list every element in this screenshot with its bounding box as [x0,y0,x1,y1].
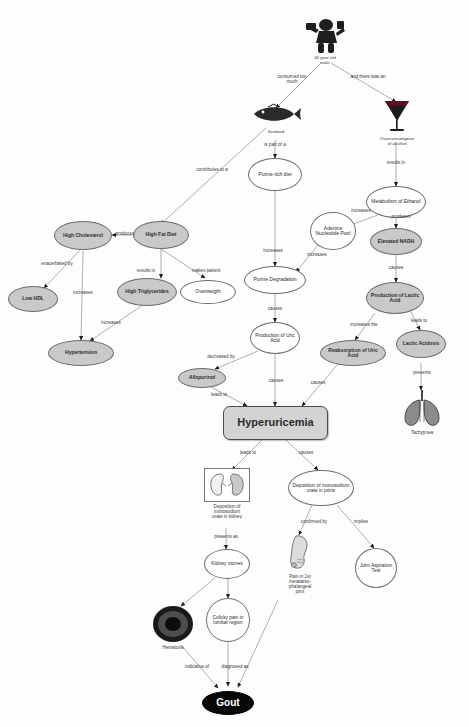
edge-label-increases-hypertension: increases [62,290,104,295]
edge-label-increases-adenine: increases [340,208,382,213]
mtp-pain-figure: Pain in 1st metatarso- phalangeal joint [272,534,328,594]
node-label: Purine rich diet [256,172,293,177]
edge-label-leads-to-joints: causes [288,450,324,455]
node-label: Colicky pain in lumbar region [207,615,249,625]
node-label: Production of Uric Acid [251,333,299,344]
edge-label-produces-nadh: produces [380,214,422,219]
edge-label-causes-kidney-stones: presents as [208,534,244,539]
edge-label-increases-uric: causes [254,306,296,311]
blood-cell-icon [151,604,195,644]
node-label: Hypertension [63,350,99,355]
node-label: Deposition of monosodium urate in joints [289,483,353,493]
node-label: Elevated NADH [376,239,416,244]
edge-label-causes-hyperuricemia: causes [258,378,294,383]
edge-label-and-there-was-an: and there was an [338,74,398,79]
edge-label-contributes-to-a: contributes to a [183,167,241,172]
edge-label-leads-to-kidney: leads to [230,450,266,455]
node-high-triglycerides[interactable]: High Triglycerides [117,278,177,306]
node-joint-aspiration-test[interactable]: Joint Aspiration Test [355,548,397,588]
node-label: Joint Aspiration Test [356,563,396,573]
edge-label-makes-patient: makes patient [180,268,232,273]
kidney-deposition-figure: Deposition of monosodium urate in kidney [199,468,255,519]
edge-label-prevents: leads to [200,392,238,397]
node-hyperuricemia[interactable]: Hyperuricemia [223,406,328,440]
edge-label-results-in-triglycerides: results in [124,268,168,273]
node-label: Adenine Nucleotide Pool [311,226,355,237]
concept-map-canvas: 40 year old male Seafood Overconsumption… [0,0,469,727]
alcohol-figure: Overconsumption of alcohol [370,98,424,147]
node-label: Lactic Acidosis [401,341,442,346]
edge-label-produces-cholesterol: produces [103,231,147,236]
node-adenine-nucleotide-pool[interactable]: Adenine Nucleotide Pool [310,212,356,250]
edge-label-presents-as: confirmed by [292,519,336,524]
hematuria-caption: Hematuria [162,645,183,650]
mtp-pain-caption: Pain in 1st metatarso- phalangeal joint [289,574,311,594]
edge-label-increases-degradation: increases [296,252,338,257]
foot-icon [286,534,314,572]
edge-label-confirmed-by: implies [338,519,384,524]
node-label: Low HDL [20,296,46,301]
wine-glass-icon [380,98,414,134]
edge-label-increases-hypertension-2: increases [90,320,132,325]
edge-label-indicative-of: diagnosed as [212,664,258,669]
edge-label-leads-to-acidosis: leads to [400,318,438,323]
node-production-of-lactic-acid[interactable]: Production of Lactic Acid [366,282,424,314]
tachypnea-figure: Tachypnea [396,388,448,435]
node-gout[interactable]: Gout [202,691,254,715]
edge-label-causes-tachypnea: prevents [404,370,440,375]
kidneys-icon [205,469,249,501]
edge-label-causes-reabsorption: causes [300,380,336,385]
node-hypertension[interactable]: Hypertension [48,340,114,366]
tachypnea-caption: Tachypnea [411,430,433,435]
node-allopurinol[interactable]: Allopurinol [178,368,226,388]
node-colicky-pain-lumbar[interactable]: Colicky pain in lumbar region [206,598,250,642]
node-label: Reabsorption of Uric Acid [321,348,385,359]
node-deposition-urate-joints[interactable]: Deposition of monosodium urate in joints [288,470,354,506]
alcohol-caption: Overconsumption of alcohol [380,137,414,147]
kidney-image-frame [204,468,250,502]
node-label: Metabolism of Ethanol [369,199,422,204]
node-label: Hyperuricemia [235,417,315,429]
node-low-hdl[interactable]: Low HDL [8,286,58,312]
node-production-of-uric-acid[interactable]: Production of Uric Acid [250,322,300,354]
man-with-food-icon [304,17,346,55]
edge-label-increases-the: increases the [340,322,388,327]
node-label: Purine Degradation [251,277,298,282]
node-reabsorption-of-uric-acid[interactable]: Reabsorption of Uric Acid [320,340,386,366]
node-label: Allopurinol [187,375,217,380]
seafood-caption: Seafood [268,130,284,135]
node-kidney-stones[interactable]: Kidney stones [204,549,250,579]
node-label: Gout [214,698,241,709]
seafood-figure: Seafood [248,103,304,135]
node-label: High Fat Diet [144,232,179,237]
node-label: Production of Lactic Acid [367,293,423,304]
edge-label-causes-lactic: causes [378,265,414,270]
node-purine-rich-diet[interactable]: Purine rich diet [248,158,302,191]
node-overweight[interactable]: Overweight [180,280,236,304]
kidney-deposition-caption: Deposition of monosodium urate in kidney [212,504,242,519]
edge-label-decreased-by: decreased by [196,354,246,359]
node-label: High Cholesterol [61,233,105,238]
node-label: Overweight [193,289,222,294]
lungs-icon [401,388,443,428]
node-lactic-acidosis[interactable]: Lactic Acidosis [396,330,446,358]
edge-label-exacerbated-by: exacerbated by [29,261,85,266]
edge-label-implies: indicative of [180,664,214,669]
node-purine-degradation[interactable]: Purine Degradation [244,266,306,294]
edge-label-is-part-of-a: is part of a [252,142,298,147]
hematuria-figure: Hematuria [146,604,200,650]
edge-label-results-in-ethanol: results in [374,160,418,165]
fish-icon [250,103,302,125]
edge-label-consumed-too-much: consumed too much [266,74,318,84]
node-label: High Triglycerides [123,289,170,294]
patient-figure: 40 year old male [297,17,353,66]
patient-caption: 40 year old male [314,56,336,66]
node-label: Kidney stones [209,561,244,566]
node-elevated-nadh[interactable]: Elevated NADH [370,228,422,255]
edge-label-increases-purine: increases [252,248,294,253]
